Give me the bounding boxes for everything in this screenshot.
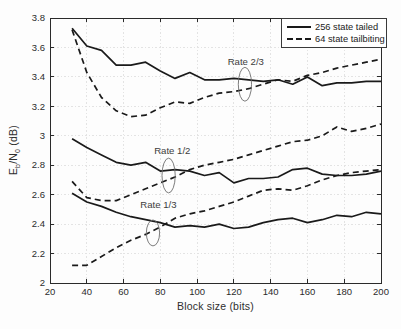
axes-box: [50, 18, 381, 283]
y-axis-label-part: (dB): [7, 125, 19, 149]
y-axis-label-part: /N: [7, 153, 19, 164]
x-tick-label: 60: [118, 286, 129, 297]
grid-lines: [50, 18, 381, 283]
y-axis-label-part: E: [7, 168, 19, 175]
legend-entry: 64 state tailbiting: [287, 33, 386, 45]
legend-label: 64 state tailbiting: [315, 34, 385, 44]
y-tick-label: 2.6: [32, 189, 45, 200]
figure: 2040608010012014016018020022.22.42.62.83…: [0, 0, 401, 329]
x-tick-label: 20: [45, 286, 56, 297]
x-tick-label: 200: [373, 286, 389, 297]
solid-line-sample-icon: [287, 26, 311, 28]
y-tick-label: 3.8: [32, 12, 45, 23]
plot-area: 2040608010012014016018020022.22.42.62.83…: [0, 0, 401, 329]
x-tick-label: 100: [189, 286, 205, 297]
x-tick-label: 140: [263, 286, 279, 297]
annotation-label: Rate 2/3: [228, 56, 264, 67]
annotation-label: Rate 1/3: [140, 199, 176, 210]
y-axis-label-part: 0: [14, 149, 21, 153]
axis-ticks: [50, 18, 381, 283]
y-tick-label: 3.4: [32, 71, 45, 82]
y-tick-label: 3.6: [32, 42, 45, 53]
legend-label: 256 state tailed: [315, 22, 378, 32]
x-axis-label: Block size (bits): [50, 300, 381, 312]
y-axis-label: Eb/N0 (dB): [7, 80, 21, 220]
data-series: [72, 28, 381, 265]
y-tick-label: 2.4: [32, 218, 45, 229]
legend-entry: 256 state tailed: [287, 21, 386, 33]
y-tick-label: 2: [40, 277, 45, 288]
x-tick-label: 80: [155, 286, 166, 297]
y-tick-label: 3.2: [32, 101, 45, 112]
annotation-label: Rate 1/2: [154, 145, 190, 156]
y-tick-label: 2.8: [32, 159, 45, 170]
annotation-ellipse: [162, 158, 175, 193]
legend: 256 state tailed64 state tailbiting: [281, 18, 387, 48]
y-tick-label: 3: [40, 130, 45, 141]
y-axis-label-part: b: [14, 164, 21, 168]
x-tick-label: 40: [81, 286, 92, 297]
series-rate-1-3-dashed: [72, 170, 381, 266]
annotations: Rate 2/3Rate 1/2Rate 1/3: [140, 56, 264, 246]
tick-labels: 2040608010012014016018020022.22.42.62.83…: [32, 12, 389, 297]
x-tick-label: 180: [336, 286, 352, 297]
dashed-line-sample-icon: [287, 38, 311, 40]
y-tick-label: 2.2: [32, 248, 45, 259]
x-tick-label: 120: [226, 286, 242, 297]
annotation-ellipse: [238, 67, 251, 101]
x-tick-label: 160: [300, 286, 316, 297]
series-rate-1-3-solid: [72, 193, 381, 228]
